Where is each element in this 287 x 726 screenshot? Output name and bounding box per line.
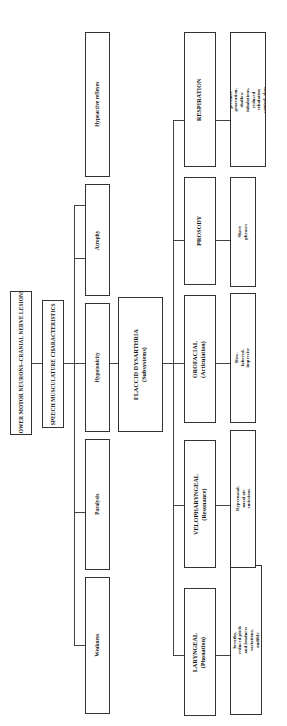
node-subsystem-respiration[interactable]: RESPIRATION — [184, 32, 216, 167]
characteristic-hypoactive-reflexes-label: Hypoactive reflexes — [94, 82, 101, 127]
connector-velopharyngeal-descriptor — [216, 505, 230, 506]
connector-to-respiration — [173, 120, 184, 121]
descriptor-orofacial-text: Slow-labored, imprecise — [234, 346, 251, 370]
subsystem-velopharyngeal-text: VELOPHARYNGEAL (Resonance) — [193, 474, 208, 535]
descriptor-laryngeal-text: Hoarse-breathy, reduced pitch and loudne… — [230, 625, 262, 655]
flaccid-dysarthria-sublabel: (Subsystems) — [141, 347, 147, 382]
node-characteristic-weakness[interactable]: Weakness — [85, 577, 110, 714]
subsystem-velopharyngeal-sublabel: (Resonance) — [200, 488, 206, 520]
subsystem-prosody-label: PROSODY — [196, 216, 202, 246]
connector-dysarthria-stub — [163, 363, 173, 364]
node-descriptor-orofacial[interactable]: Slow-labored, imprecise — [230, 293, 256, 423]
node-characteristic-hypotonicity[interactable]: Hypotonicity — [85, 303, 110, 432]
node-characteristic-atrophy[interactable]: Atrophy — [85, 184, 110, 296]
connector-characteristics-trunk — [74, 205, 75, 645]
node-level2-label: SPEECH MUSCULATURE CHARACTERISTICS — [50, 303, 57, 425]
subsystem-orofacial-label: OROFACIAL — [193, 340, 199, 377]
subsystem-respiration-text: RESPIRATION — [196, 78, 204, 120]
node-subsystem-orofacial[interactable]: OROFACIAL (Articulation) — [184, 295, 216, 423]
node-descriptor-laryngeal[interactable]: Hoarse-breathy, reduced pitch and loudne… — [230, 565, 262, 715]
connector-subsystems-trunk — [173, 120, 174, 655]
connector-prosody-descriptor — [216, 240, 230, 241]
connector-dysarthria-in — [110, 363, 118, 364]
connector-to-laryngeal — [173, 655, 184, 656]
node-root[interactable]: LOWER MOTOR NEURONS–CRANIAL NERVE LESION… — [10, 291, 32, 435]
subsystem-prosody-text: PROSODY — [196, 216, 204, 246]
node-descriptor-prosody[interactable]: Short phrases — [230, 177, 256, 287]
subsystem-respiration-label: RESPIRATION — [196, 78, 202, 120]
characteristic-weakness-label: Weakness — [94, 634, 101, 657]
node-root-label: LOWER MOTOR NEURONS–CRANIAL NERVE LESION… — [18, 291, 25, 435]
connector-to-orofacial — [173, 363, 184, 364]
connector-dysarthria-joint — [110, 363, 111, 364]
connector-to-paralysis — [74, 512, 85, 513]
characteristic-atrophy-label: Atrophy — [94, 230, 101, 249]
node-descriptor-velopharyngeal[interactable]: Hypernasal, nasal air emissions — [230, 430, 256, 568]
descriptor-velopharyngeal-text: Hypernasal, nasal air emissions — [234, 487, 251, 512]
connector-laryngeal-descriptor — [216, 655, 230, 656]
connector-to-velopharyngeal — [173, 505, 184, 506]
connector-to-weakness — [74, 645, 85, 646]
connector-to-prosody — [173, 240, 184, 241]
characteristic-hypotonicity-label: Hypotonicity — [94, 352, 101, 382]
subsystem-laryngeal-sublabel: (Phonation) — [200, 636, 206, 667]
characteristic-paralysis-label: Paralysis — [94, 494, 101, 515]
descriptor-respiration-text: Reduced pressure generation, shallow inh… — [230, 82, 266, 116]
connector-to-hypotonicity — [74, 363, 85, 364]
connector-orofacial-descriptor — [216, 363, 230, 364]
node-subsystem-prosody[interactable]: PROSODY — [184, 177, 216, 285]
flaccid-dysarthria-text: FLACCID DYSARTHRIA (Subsystems) — [133, 329, 148, 400]
subsystem-velopharyngeal-label: VELOPHARYNGEAL — [193, 474, 199, 535]
connector-root-to-level2 — [32, 363, 42, 364]
flowchart-canvas: LOWER MOTOR NEURONS–CRANIAL NERVE LESION… — [0, 0, 287, 726]
node-speech-musculature-characteristics[interactable]: SPEECH MUSCULATURE CHARACTERISTICS — [42, 300, 64, 428]
connector-respiration-descriptor — [216, 120, 230, 121]
node-subsystem-velopharyngeal[interactable]: VELOPHARYNGEAL (Resonance) — [184, 440, 216, 568]
node-descriptor-respiration[interactable]: Reduced pressure generation, shallow inh… — [230, 32, 266, 167]
subsystem-laryngeal-text: LARYNGEAL (Phonation) — [193, 632, 208, 671]
connector-level2-to-dysarthria-a — [64, 363, 74, 364]
descriptor-prosody-text: Short phrases — [237, 220, 248, 244]
node-flaccid-dysarthria[interactable]: FLACCID DYSARTHRIA (Subsystems) — [118, 297, 163, 432]
subsystem-orofacial-text: OROFACIAL (Articulation) — [193, 340, 208, 377]
subsystem-orofacial-sublabel: (Articulation) — [200, 341, 206, 378]
node-characteristic-hypoactive-reflexes[interactable]: Hypoactive reflexes — [85, 32, 110, 177]
connector-to-atrophy — [74, 258, 85, 259]
node-characteristic-paralysis[interactable]: Paralysis — [85, 439, 110, 570]
connector-to-hypoactive-reflexes — [74, 205, 85, 206]
subsystem-laryngeal-label: LARYNGEAL — [193, 632, 199, 671]
node-subsystem-laryngeal[interactable]: LARYNGEAL (Phonation) — [184, 588, 216, 716]
flaccid-dysarthria-label: FLACCID DYSARTHRIA — [133, 329, 139, 400]
